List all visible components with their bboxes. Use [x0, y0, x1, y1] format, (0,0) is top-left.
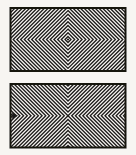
scanned-pattern-figure: [0, 0, 136, 155]
pattern-figure-svg: [0, 0, 136, 155]
center-dot: [67, 38, 69, 40]
